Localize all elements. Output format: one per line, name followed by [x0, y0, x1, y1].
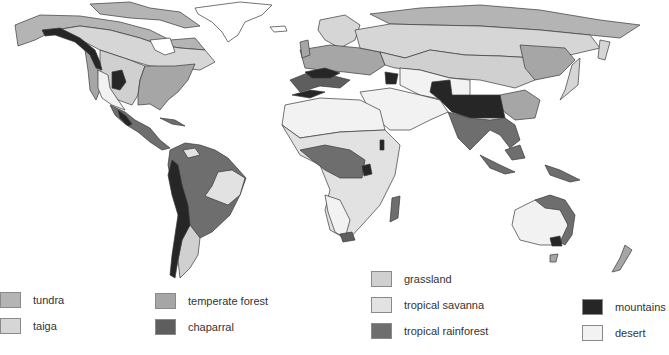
- madagascar: [390, 196, 400, 222]
- legend-label: temperate forest: [188, 295, 268, 307]
- legend-tundra: tundra: [0, 292, 64, 308]
- grassland-swatch: [371, 271, 392, 287]
- legend-taiga: taiga: [0, 318, 57, 334]
- kamchatka: [598, 40, 610, 60]
- china-south-temperate: [500, 90, 540, 120]
- tropical-savanna-swatch: [371, 297, 392, 313]
- legend-grassland: grassland: [371, 271, 452, 287]
- legend-label: taiga: [33, 320, 57, 332]
- legend-mountains: mountains: [582, 299, 666, 315]
- legend-desert: desert: [582, 325, 646, 341]
- chaparral-swatch: [155, 319, 176, 335]
- tasmania: [550, 254, 558, 262]
- world-biome-map: [0, 0, 669, 280]
- temperate-forest-swatch: [155, 293, 176, 309]
- legend-tropical-rainforest: tropical rainforest: [371, 323, 488, 339]
- uk: [300, 40, 310, 58]
- greenland: [195, 2, 272, 42]
- legend-label: tropical savanna: [404, 299, 484, 311]
- legend-chaparral: chaparral: [155, 319, 234, 335]
- legend-tropical-savanna: tropical savanna: [371, 297, 484, 313]
- taiga-swatch: [0, 318, 21, 334]
- desert-swatch: [582, 325, 603, 341]
- legend-label: chaparral: [188, 321, 234, 333]
- africa-chaparral-south: [340, 232, 355, 242]
- north-america-temperate-forest: [138, 64, 195, 110]
- australia-mountains: [550, 236, 562, 246]
- new-zealand: [612, 245, 632, 272]
- mountains-swatch: [582, 299, 603, 315]
- legend-label: desert: [615, 327, 646, 339]
- legend-label: grassland: [404, 273, 452, 285]
- iceland: [270, 26, 287, 32]
- tundra-swatch: [0, 292, 21, 308]
- legend-label: tropical rainforest: [404, 325, 488, 337]
- scandinavia-taiga: [318, 15, 360, 48]
- legend-label: mountains: [615, 301, 666, 313]
- tropical-rainforest-swatch: [371, 323, 392, 339]
- caucasus-mountains: [385, 72, 398, 84]
- caribbean-islands: [160, 118, 185, 126]
- legend-temperate-forest: temperate forest: [155, 293, 268, 309]
- legend-label: tundra: [33, 294, 64, 306]
- sea-islands: [480, 145, 580, 182]
- north-africa-mountains: [292, 90, 325, 98]
